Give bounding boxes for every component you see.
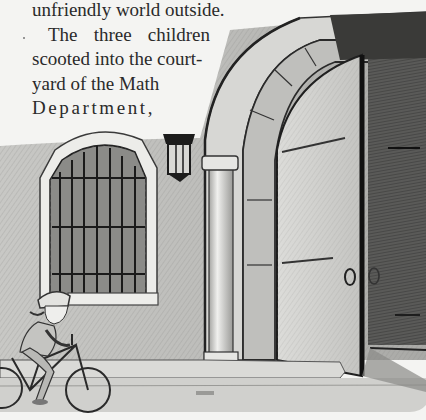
- text-line-2: The three children: [32, 23, 210, 48]
- wall-lantern: [163, 134, 195, 182]
- text-line-4: yard of the Math: [32, 72, 212, 97]
- word: children: [148, 23, 210, 48]
- stray-mark: [23, 37, 25, 39]
- barred-window: [40, 132, 158, 305]
- story-text: unfriendly world outside. The three chil…: [32, 0, 212, 121]
- text-line-5: Department,: [32, 96, 212, 121]
- word: The: [48, 23, 78, 48]
- word: three: [94, 23, 132, 48]
- text-line-3: scooted into the court-: [32, 47, 212, 72]
- book-page: unfriendly world outside. The three chil…: [0, 0, 426, 420]
- text-line-1: unfriendly world outside.: [32, 0, 212, 23]
